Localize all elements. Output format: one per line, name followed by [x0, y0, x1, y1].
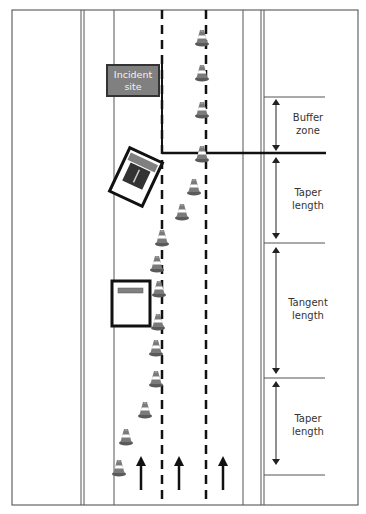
incident-label-line-2: site — [108, 81, 158, 93]
incident-label-line-1: Incident — [108, 69, 158, 81]
tangent-length-label: Tangent length — [278, 296, 338, 322]
zone-label-line: length — [278, 425, 338, 438]
work-vehicle — [112, 281, 150, 326]
zone-label-line: Tangent — [278, 296, 338, 309]
zone-label-line: length — [278, 309, 338, 322]
buffer-zone-label: Buffer zone — [278, 111, 338, 137]
zone-label-line: zone — [278, 124, 338, 137]
zone-label-line: Taper — [278, 412, 338, 425]
traffic-cone-icon — [138, 402, 152, 419]
traffic-cone-icon — [152, 281, 166, 298]
arrow-up-icon — [136, 456, 146, 490]
traffic-cone-icon — [119, 429, 133, 446]
zone-label-line: Taper — [278, 186, 338, 199]
emergency-vehicle — [110, 148, 163, 207]
traffic-cone-icon — [187, 179, 201, 196]
taper-length-label-2: Taper length — [278, 412, 338, 438]
traffic-cone-icon — [155, 230, 169, 247]
arrow-up-icon — [174, 456, 184, 490]
zone-label-line: Buffer — [278, 111, 338, 124]
traffic-cone-icon — [175, 204, 189, 221]
taper-length-label-1: Taper length — [278, 186, 338, 212]
zone-label-line: length — [278, 199, 338, 212]
arrow-up-icon — [218, 456, 228, 490]
incident-site-label: Incident site — [106, 64, 160, 97]
